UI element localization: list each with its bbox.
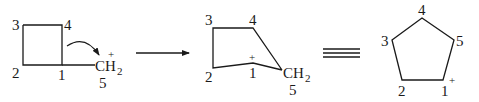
atom-label-3: 3 [205, 12, 213, 28]
atom-label-5: 5 [456, 33, 464, 49]
atom-label-1: 1 [249, 65, 257, 81]
atom-label-4: 4 [249, 12, 257, 28]
atom-label-5: 5 [289, 82, 297, 98]
cyclobutane-ring [23, 25, 62, 65]
atom-label-2: 2 [398, 83, 406, 99]
cyclopentane-ring [392, 18, 454, 80]
atom-label-3: 3 [12, 17, 20, 33]
curved-arrow-icon [67, 42, 99, 55]
atom-label-2: 2 [205, 69, 213, 85]
ch2-subscript: 2 [117, 65, 123, 77]
atom-label-1: 1 [441, 83, 449, 99]
reaction-diagram: 3 4 2 1 CH 2 + 5 3 4 2 1 + CH 2 5 4 3 5 … [0, 0, 479, 102]
intermediate-ring [213, 28, 282, 70]
charge-plus: + [108, 48, 114, 60]
ch2-group: CH [95, 58, 116, 74]
atom-label-3: 3 [381, 33, 389, 49]
charge-plus: + [449, 74, 455, 86]
atom-label-5: 5 [99, 75, 107, 91]
product-cyclopentane: 4 3 5 2 1 + [381, 2, 464, 99]
equivalence-icon [323, 49, 360, 57]
atom-label-1: 1 [58, 67, 66, 83]
atom-label-2: 2 [12, 65, 20, 81]
reactant-cyclobutane: 3 4 2 1 CH 2 + 5 [12, 17, 123, 91]
atom-label-4: 4 [418, 2, 426, 18]
ch2-subscript: 2 [305, 72, 311, 84]
atom-label-4: 4 [64, 17, 72, 33]
ch2-group: CH [283, 65, 304, 81]
charge-plus: + [249, 51, 255, 63]
intermediate-structure: 3 4 2 1 + CH 2 5 [205, 12, 311, 98]
